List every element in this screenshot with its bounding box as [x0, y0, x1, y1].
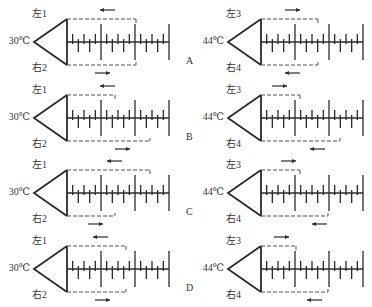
direction-arrow-left-icon	[310, 147, 325, 151]
option-right-panel: 44℃左3右4	[203, 234, 363, 302]
option-left-panel: 30℃左1右2	[9, 158, 169, 226]
temperature-label: 44℃	[203, 262, 224, 273]
nerve-fiber-ruler	[261, 175, 363, 211]
temperature-label: 44℃	[203, 35, 224, 46]
nerve-conduction-diagram: 30℃左1右244℃左3右4A30℃左1右244℃左3右4B30℃左1右244℃…	[0, 0, 372, 307]
nerve-fiber-ruler	[67, 100, 169, 136]
electrode-v-shape	[228, 170, 261, 216]
option-left-panel: 30℃左1右2	[9, 7, 169, 75]
direction-arrow-right-icon	[95, 298, 110, 302]
bottom-electrode-label: 右2	[32, 212, 47, 224]
option-right-panel: 44℃左3右4	[203, 7, 363, 75]
nerve-fiber-ruler	[261, 24, 363, 60]
direction-arrow-right-icon	[281, 159, 296, 163]
direction-arrow-left-icon	[312, 222, 327, 226]
temperature-label: 30℃	[9, 186, 30, 197]
bottom-electrode-label: 右2	[32, 61, 47, 73]
option-b: 30℃左1右244℃左3右4B	[9, 83, 363, 151]
top-electrode-label: 左1	[32, 158, 47, 170]
electrode-v-shape	[34, 95, 67, 141]
electrode-v-shape	[228, 246, 261, 292]
direction-arrow-right-icon	[95, 71, 110, 75]
top-electrode-label: 左1	[32, 83, 47, 95]
direction-arrow-left-icon	[100, 84, 115, 88]
direction-arrow-right-icon	[88, 222, 103, 226]
direction-arrow-right-icon	[272, 84, 287, 88]
option-a: 30℃左1右244℃左3右4A	[9, 7, 363, 75]
top-electrode-label: 左1	[32, 234, 47, 246]
temperature-label: 44℃	[203, 111, 224, 122]
top-electrode-label: 左1	[32, 7, 47, 19]
bottom-electrode-label: 右2	[32, 137, 47, 149]
direction-arrow-right-icon	[285, 8, 300, 12]
option-d: 30℃左1右244℃左3右4D	[9, 234, 363, 302]
bottom-electrode-label: 右4	[226, 288, 241, 300]
bottom-electrode-label: 右4	[226, 212, 241, 224]
top-electrode-label: 左3	[226, 83, 241, 95]
option-right-panel: 44℃左3右4	[203, 158, 363, 226]
temperature-label: 30℃	[9, 35, 30, 46]
direction-arrow-left-icon	[285, 71, 300, 75]
top-electrode-label: 左3	[226, 7, 241, 19]
direction-arrow-left-icon	[93, 235, 108, 239]
option-c: 30℃左1右244℃左3右4C	[9, 158, 363, 226]
option-right-panel: 44℃左3右4	[203, 83, 363, 151]
option-letter: C	[186, 206, 193, 217]
temperature-label: 30℃	[9, 262, 30, 273]
electrode-v-shape	[34, 170, 67, 216]
option-letter: B	[186, 131, 193, 142]
nerve-fiber-ruler	[261, 100, 363, 136]
direction-arrow-right-icon	[115, 147, 130, 151]
direction-arrow-left-icon	[307, 298, 322, 302]
temperature-label: 30℃	[9, 111, 30, 122]
bottom-electrode-label: 右4	[226, 137, 241, 149]
nerve-fiber-ruler	[67, 24, 169, 60]
direction-arrow-left-icon	[100, 8, 115, 12]
option-letter: D	[186, 282, 193, 293]
nerve-fiber-ruler	[67, 175, 169, 211]
nerve-fiber-ruler	[67, 251, 169, 287]
direction-arrow-right-icon	[274, 235, 289, 239]
electrode-v-shape	[34, 246, 67, 292]
option-left-panel: 30℃左1右2	[9, 83, 169, 151]
option-letter: A	[186, 55, 194, 66]
electrode-v-shape	[34, 19, 67, 65]
electrode-v-shape	[228, 19, 261, 65]
bottom-electrode-label: 右4	[226, 61, 241, 73]
temperature-label: 44℃	[203, 186, 224, 197]
bottom-electrode-label: 右2	[32, 288, 47, 300]
nerve-fiber-ruler	[261, 251, 363, 287]
top-electrode-label: 左3	[226, 234, 241, 246]
option-left-panel: 30℃左1右2	[9, 234, 169, 302]
direction-arrow-left-icon	[107, 159, 122, 163]
top-electrode-label: 左3	[226, 158, 241, 170]
electrode-v-shape	[228, 95, 261, 141]
